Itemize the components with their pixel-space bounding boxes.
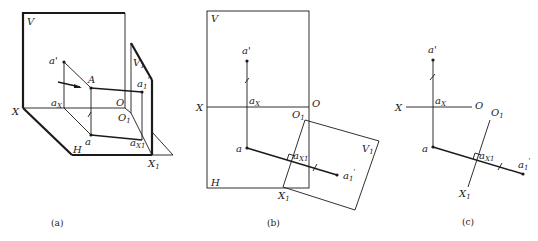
label-A: A [87, 74, 95, 85]
point-a1-prime [335, 173, 338, 176]
label-a: a [236, 143, 242, 154]
h-plane-left-edge [23, 108, 72, 155]
label-X1: X1 [277, 190, 290, 203]
label-a1-prime: a1' [343, 168, 355, 183]
label-a: a [85, 136, 91, 147]
label-a-prime: a' [49, 55, 58, 66]
label-aX1: aX1 [293, 150, 308, 163]
label-V: V [27, 16, 36, 27]
label-aX: aX [249, 95, 261, 108]
label-H: H [210, 177, 220, 188]
point-a1-prime [521, 172, 524, 175]
label-H: H [72, 144, 82, 155]
label-a-prime: a' [428, 44, 437, 55]
label-O1: O1 [292, 109, 305, 122]
label-V1: V1 [133, 57, 145, 70]
point-A [89, 86, 92, 89]
label-V: V [211, 13, 220, 24]
caption-c: (c) [462, 217, 474, 227]
label-X: X [11, 106, 20, 117]
label-X: X [394, 102, 403, 113]
equal-distance-tick [430, 74, 435, 80]
label-V1: V1 [362, 143, 374, 156]
point-a [245, 146, 248, 149]
label-aX: aX [435, 95, 447, 108]
proj-line-a-a1-prime [433, 147, 523, 174]
label-O1: O1 [491, 107, 504, 120]
label-O1: O1 [118, 112, 131, 125]
panel-a: V a' A V1 a1' X aX O O1 a aX1 H X1 (a) [11, 13, 173, 228]
h-plane-right-edge [152, 132, 173, 155]
point-a-prime [431, 58, 434, 61]
v1-plane-frame [283, 120, 379, 210]
panel-c: a' X aX O O1 a aX1 a1' X1 (c) [394, 44, 530, 227]
label-X1: X1 [147, 158, 160, 171]
point-a [431, 145, 434, 148]
proj-line-aX-a [64, 108, 91, 135]
label-X: X [195, 102, 204, 113]
label-O: O [312, 98, 320, 109]
label-X1: X1 [458, 188, 471, 201]
label-a1-prime: a1' [137, 76, 149, 91]
label-O: O [116, 97, 124, 108]
point-a-prime [245, 59, 248, 62]
v-plane-edge [23, 13, 125, 108]
arrow-head-icon [74, 84, 82, 88]
caption-a: (a) [51, 218, 63, 228]
projection-figure: V a' A V1 a1' X aX O O1 a aX1 H X1 (a) V… [0, 0, 538, 241]
label-a: a [422, 143, 428, 154]
label-a-prime: a' [242, 45, 251, 56]
label-a1-prime: a1' [518, 157, 530, 172]
caption-b: (b) [267, 218, 280, 228]
proj-line-a-a1-prime [247, 148, 337, 175]
proj-line-A-a1-prime [91, 88, 142, 92]
panel-b: V a' X aX O O1 V1 a aX1 a1' H X1 (b) [195, 11, 379, 228]
label-O: O [475, 100, 483, 111]
point-a-prime [62, 60, 65, 63]
